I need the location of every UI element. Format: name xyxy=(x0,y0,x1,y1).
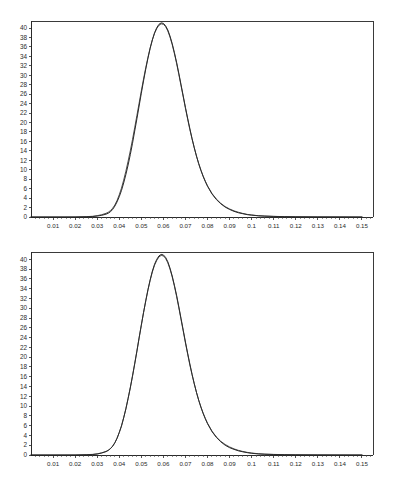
y-tick-label: 26 xyxy=(20,324,28,331)
y-tick-label: 38 xyxy=(20,265,28,272)
x-tick-label: 0.1 xyxy=(247,222,256,229)
x-tick-label: 0.12 xyxy=(290,460,303,467)
x-tick-label: 0.07 xyxy=(179,222,192,229)
x-tick-label: 0.04 xyxy=(113,460,126,467)
y-tick-label: 40 xyxy=(20,256,28,263)
x-tick-label: 0.04 xyxy=(113,222,126,229)
y-tick-label: 2 xyxy=(23,204,27,211)
y-tick-label: 34 xyxy=(20,53,28,60)
x-tick-label: 0.06 xyxy=(157,460,170,467)
x-tick-label: 0.09 xyxy=(224,222,237,229)
series-curve-fitted xyxy=(31,255,362,455)
y-tick-label: 14 xyxy=(20,147,28,154)
x-tick-label: 0.13 xyxy=(312,460,325,467)
y-tick-label: 0 xyxy=(23,213,27,220)
y-tick-label: 16 xyxy=(20,138,28,145)
y-tick-label: 10 xyxy=(20,166,28,173)
x-tick-label: 0.13 xyxy=(312,222,325,229)
x-tick-label: 0.05 xyxy=(135,460,148,467)
y-tick-label: 18 xyxy=(20,128,28,135)
x-tick-label: 0.05 xyxy=(135,222,148,229)
y-tick-label: 8 xyxy=(23,412,27,419)
x-tick-label: 0.08 xyxy=(201,222,214,229)
x-tick-label: 0.14 xyxy=(334,460,347,467)
y-tick-label: 20 xyxy=(20,353,28,360)
y-tick-label: 0 xyxy=(23,451,27,458)
y-tick-label: 12 xyxy=(20,157,28,164)
y-tick-label: 36 xyxy=(20,275,28,282)
y-tick-label: 38 xyxy=(20,34,28,41)
chart-top: 02468101214161820222426283032343638400.0… xyxy=(0,0,394,240)
plot-frame xyxy=(31,21,373,217)
chart-top-canvas: 02468101214161820222426283032343638400.0… xyxy=(0,0,394,240)
x-tick-label: 0.06 xyxy=(157,222,170,229)
chart-bottom: 02468101214161820222426283032343638400.0… xyxy=(0,240,394,479)
x-tick-label: 0.02 xyxy=(69,460,82,467)
x-tick-label: 0.1 xyxy=(247,460,256,467)
x-tick-label: 0.09 xyxy=(224,460,237,467)
y-tick-label: 14 xyxy=(20,383,28,390)
y-tick-label: 32 xyxy=(20,62,28,69)
x-tick-label: 0.03 xyxy=(91,460,104,467)
chart-bottom-canvas: 02468101214161820222426283032343638400.0… xyxy=(0,240,394,479)
y-tick-label: 28 xyxy=(20,81,28,88)
y-tick-label: 12 xyxy=(20,393,28,400)
x-tick-label: 0.07 xyxy=(179,460,192,467)
y-tick-label: 10 xyxy=(20,402,28,409)
y-tick-label: 28 xyxy=(20,314,28,321)
y-tick-label: 22 xyxy=(20,344,28,351)
y-tick-label: 20 xyxy=(20,119,28,126)
y-tick-label: 30 xyxy=(20,72,28,79)
y-tick-label: 30 xyxy=(20,304,28,311)
figure-page: 02468101214161820222426283032343638400.0… xyxy=(0,0,394,479)
x-tick-label: 0.08 xyxy=(201,460,214,467)
y-tick-label: 6 xyxy=(23,422,27,429)
y-tick-label: 26 xyxy=(20,90,28,97)
y-tick-label: 2 xyxy=(23,441,27,448)
y-tick-label: 4 xyxy=(23,194,27,201)
y-tick-label: 24 xyxy=(20,100,28,107)
y-tick-label: 16 xyxy=(20,373,28,380)
x-tick-label: 0.11 xyxy=(268,460,280,467)
x-tick-label: 0.03 xyxy=(91,222,104,229)
x-tick-label: 0.14 xyxy=(334,222,347,229)
plot-frame xyxy=(31,252,373,455)
x-tick-label: 0.15 xyxy=(356,222,369,229)
y-tick-label: 4 xyxy=(23,432,27,439)
series-curve-empirical xyxy=(31,254,362,455)
y-tick-label: 6 xyxy=(23,185,27,192)
x-tick-label: 0.15 xyxy=(356,460,369,467)
y-tick-label: 24 xyxy=(20,334,28,341)
series-curve-empirical xyxy=(31,23,362,217)
x-tick-label: 0.01 xyxy=(47,222,60,229)
y-tick-label: 34 xyxy=(20,285,28,292)
y-tick-label: 18 xyxy=(20,363,28,370)
y-tick-label: 22 xyxy=(20,109,28,116)
series-curve-fitted xyxy=(31,24,362,217)
x-tick-label: 0.12 xyxy=(290,222,303,229)
y-tick-label: 36 xyxy=(20,43,28,50)
y-tick-label: 40 xyxy=(20,24,28,31)
x-tick-label: 0.11 xyxy=(268,222,280,229)
x-tick-label: 0.01 xyxy=(47,460,60,467)
y-tick-label: 8 xyxy=(23,175,27,182)
y-tick-label: 32 xyxy=(20,295,28,302)
x-tick-label: 0.02 xyxy=(69,222,82,229)
